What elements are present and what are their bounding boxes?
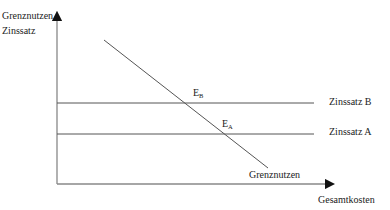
- y-axis-label-line1: Grenznutzen: [2, 11, 53, 21]
- point-ea-label: EA: [222, 119, 233, 131]
- point-ea-sub: A: [228, 123, 233, 130]
- rate-a-label: Zinssatz A: [329, 127, 372, 137]
- x-axis-label: Gesamtkosten: [318, 195, 375, 205]
- curve-label: Grenznutzen: [249, 170, 300, 180]
- point-eb-label: EB: [193, 88, 203, 100]
- rate-b-label: Zinssatz B: [329, 97, 372, 107]
- y-axis-label-line2: Zinssatz: [2, 26, 35, 36]
- grenznutzen-curve: [104, 40, 268, 168]
- point-eb-sub: B: [199, 92, 203, 99]
